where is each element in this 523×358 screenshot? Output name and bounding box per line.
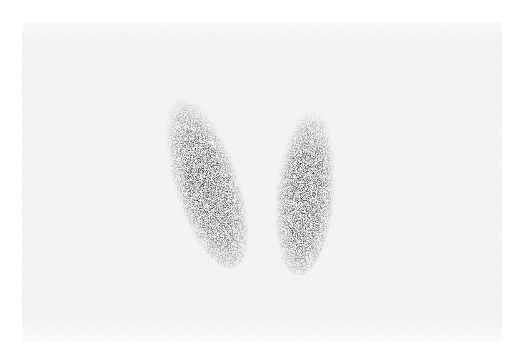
bottom-edge xyxy=(0,318,523,358)
right-lobe xyxy=(144,77,265,278)
scintigram xyxy=(0,0,523,358)
top-edge xyxy=(0,0,523,40)
left-lobe xyxy=(268,98,343,279)
